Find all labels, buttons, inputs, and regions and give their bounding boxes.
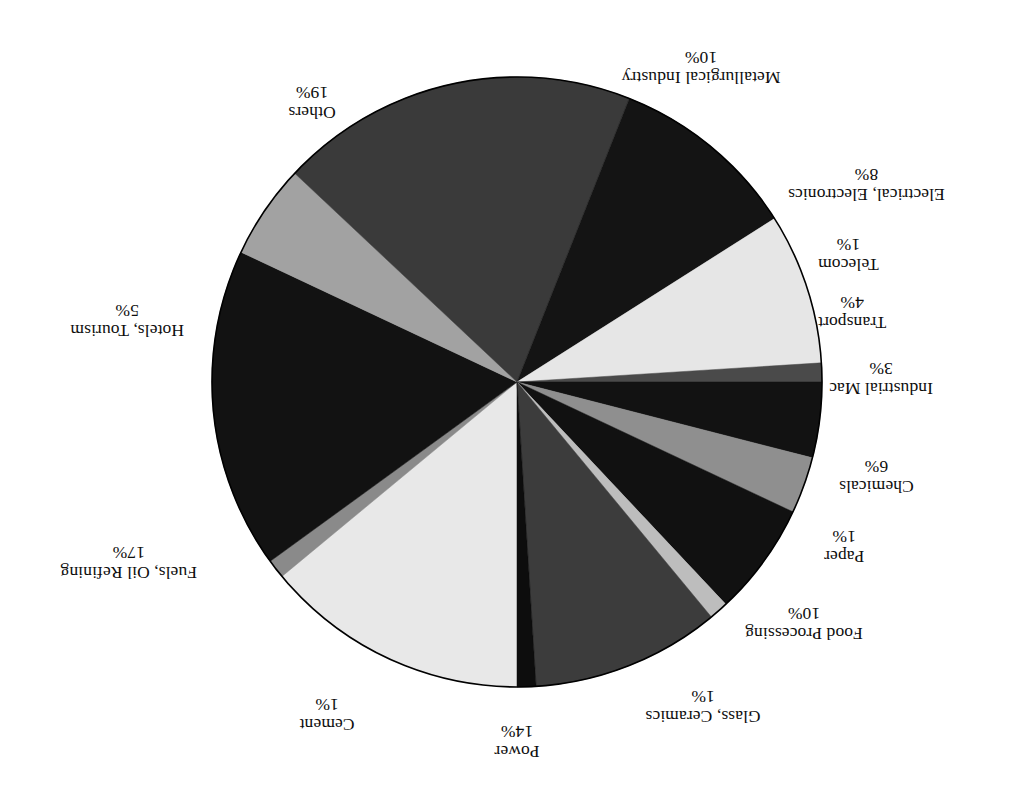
pie-label-food-processing: Food Processing 10% — [745, 604, 863, 643]
pie-label-chemicals-name: Chemicals — [839, 476, 914, 496]
pie-label-electrical-electronics: Electrical, Electronics 8% — [788, 165, 945, 204]
pie-label-metallurgical-industry: Metallurgical Industry 10% — [622, 48, 781, 87]
pie-label-cement-name: Cement — [299, 714, 354, 734]
pie-label-chemicals: Chemicals 6% — [839, 457, 914, 496]
pie-label-glass-ceramics-value: 1% — [645, 687, 760, 707]
pie-label-telecom-value: 1% — [818, 235, 879, 255]
pie-chart — [0, 0, 1033, 806]
pie-label-others-name: Others — [288, 102, 335, 122]
pie-label-others-value: 19% — [288, 83, 335, 103]
pie-label-food-processing-name: Food Processing — [745, 623, 863, 643]
pie-label-industrial-mac-value: 3% — [829, 359, 933, 379]
pie-label-transport: Transport 4% — [818, 293, 886, 332]
pie-label-hotels-tourism-name: Hotels, Tourism — [70, 320, 184, 340]
pie-label-electrical-electronics-name: Electrical, Electronics — [788, 184, 945, 204]
pie-label-paper: Paper 1% — [824, 527, 864, 566]
pie-label-paper-value: 1% — [824, 527, 864, 547]
pie-figure-rotated-180: Power 14% Cement 1% Fuels, Oil Refining … — [0, 0, 1033, 806]
pie-label-electrical-electronics-value: 8% — [788, 165, 945, 185]
pie-label-cement: Cement 1% — [299, 695, 354, 734]
pie-label-transport-name: Transport — [818, 312, 886, 332]
pie-label-fuels-oil-refining-value: 17% — [60, 543, 197, 563]
pie-label-fuels-oil-refining: Fuels, Oil Refining 17% — [60, 543, 197, 582]
pie-label-fuels-oil-refining-name: Fuels, Oil Refining — [60, 562, 197, 582]
pie-label-telecom: Telecom 1% — [818, 235, 879, 274]
pie-label-hotels-tourism-value: 5% — [70, 301, 184, 321]
pie-label-industrial-mac: Industrial Mac 3% — [829, 359, 933, 398]
pie-label-power-value: 14% — [494, 722, 539, 742]
pie-label-glass-ceramics: Glass, Ceramics 1% — [645, 687, 760, 726]
pie-label-food-processing-value: 10% — [745, 604, 863, 624]
pie-label-hotels-tourism: Hotels, Tourism 5% — [70, 301, 184, 340]
chart-page: Power 14% Cement 1% Fuels, Oil Refining … — [0, 0, 1033, 806]
pie-label-paper-name: Paper — [824, 546, 864, 566]
pie-label-others: Others 19% — [288, 83, 335, 122]
pie-label-glass-ceramics-name: Glass, Ceramics — [645, 706, 760, 726]
pie-label-metallurgical-industry-name: Metallurgical Industry — [622, 67, 781, 87]
pie-label-industrial-mac-name: Industrial Mac — [829, 378, 933, 398]
pie-label-power-name: Power — [494, 741, 539, 761]
pie-label-chemicals-value: 6% — [839, 457, 914, 477]
pie-label-telecom-name: Telecom — [818, 254, 879, 274]
pie-label-transport-value: 4% — [818, 293, 886, 313]
pie-label-cement-value: 1% — [299, 695, 354, 715]
pie-label-metallurgical-industry-value: 10% — [622, 48, 781, 68]
pie-label-power: Power 14% — [494, 722, 539, 761]
